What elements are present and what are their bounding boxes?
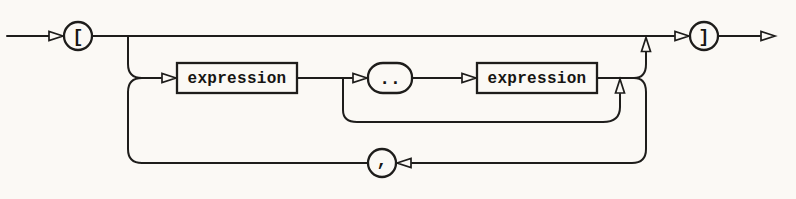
comma-label: , <box>377 151 388 171</box>
railroad-diagram: [ expression .. expression , ] <box>0 0 796 199</box>
open-bracket-label: [ <box>73 27 84 47</box>
expression-1-label: expression <box>187 70 286 88</box>
paper-background <box>0 0 796 199</box>
close-bracket-label: ] <box>699 27 710 47</box>
expression-2-label: expression <box>487 70 586 88</box>
scanned-page: [ expression .. expression , ] <box>0 0 796 199</box>
range-dots-label: .. <box>379 69 401 89</box>
